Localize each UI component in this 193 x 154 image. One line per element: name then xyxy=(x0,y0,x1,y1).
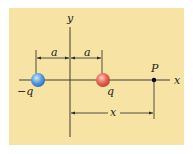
x-axis-label: x xyxy=(174,74,181,87)
x-distance-label: x xyxy=(110,106,117,119)
positive-charge-label: q xyxy=(107,85,114,98)
negative-charge-label: −q xyxy=(17,85,33,98)
point-p-label: P xyxy=(150,62,159,75)
y-axis-label: y xyxy=(66,12,74,25)
dipole-field-diagram: y x a a −q q P x xyxy=(0,0,193,154)
right-a-label: a xyxy=(84,46,91,59)
left-a-label: a xyxy=(51,46,58,59)
